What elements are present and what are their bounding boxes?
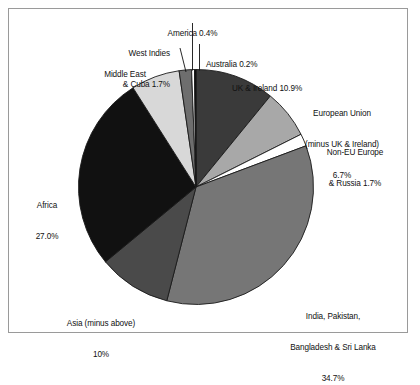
slice-label-india-pakistan-line-3: 34.7% [260, 374, 406, 384]
slice-label-non-eu-europe-line-2: & Russia 1.7% [300, 179, 410, 189]
slice-label-european-union-line-1: European Union [278, 109, 406, 119]
slice-label-asia-line-1: Asia (minus above) [36, 319, 166, 329]
slice-label-africa-line-1: Africa [16, 201, 78, 211]
slice-label-asia: Asia (minus above) 10% [36, 299, 166, 381]
slice-label-africa: Africa 27.0% [16, 181, 78, 263]
slice-label-middle-east-line-2: 6.7% [85, 101, 165, 111]
slice-label-india-pakistan: India, Pakistan, Bangladesh & Sri Lanka … [260, 292, 406, 385]
slice-label-non-eu-europe: Non-EU Europe & Russia 1.7% [300, 128, 410, 210]
slice-label-india-pakistan-line-1: India, Pakistan, [260, 312, 406, 322]
slice-label-asia-line-2: 10% [36, 350, 166, 360]
slice-label-africa-line-2: 27.0% [16, 232, 78, 242]
slice-label-india-pakistan-line-2: Bangladesh & Sri Lanka [260, 343, 406, 353]
slice-label-middle-east: Middle East 6.7% [85, 50, 165, 132]
slice-label-non-eu-europe-line-1: Non-EU Europe [300, 148, 410, 158]
slice-label-middle-east-line-1: Middle East [85, 70, 165, 80]
